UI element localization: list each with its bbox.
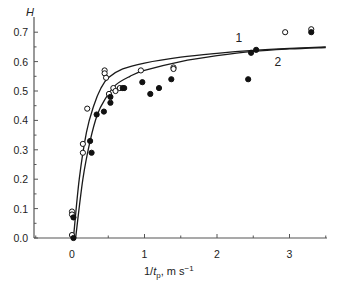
x-tick-label: 3 [287, 248, 293, 260]
curve-1 [73, 47, 325, 238]
filled-point [248, 50, 253, 55]
filled-point [108, 100, 113, 105]
axes: 0.00.10.20.30.40.50.60.70123 [13, 17, 327, 260]
filled-point [140, 80, 145, 85]
curve-label: 1 [235, 31, 242, 45]
filled-point [148, 91, 153, 96]
curve-2 [76, 47, 326, 238]
y-tick-label: 0.5 [13, 85, 28, 97]
filled-point [122, 85, 127, 90]
filled-point [108, 94, 113, 99]
open-point [80, 141, 85, 146]
open-point [80, 150, 85, 155]
axis-labels: H 1/tp, m s−1 [26, 6, 194, 280]
open-point [171, 66, 176, 71]
x-tick-label: 2 [214, 248, 220, 260]
open-point [103, 75, 108, 80]
x-tick-label: 0 [69, 248, 75, 260]
filled-point [88, 138, 93, 143]
filled-point [156, 85, 161, 90]
y-tick-label: 0.7 [13, 26, 28, 38]
x-axis-label: 1/tp, m s−1 [144, 264, 194, 280]
curve-label: 2 [275, 55, 282, 69]
y-tick-label: 0.0 [13, 232, 28, 244]
y-tick-label: 0.2 [13, 173, 28, 185]
filled-point [89, 150, 94, 155]
open-point [138, 68, 143, 73]
filled-point [94, 112, 99, 117]
filled-point [71, 215, 76, 220]
y-tick-label: 0.6 [13, 56, 28, 68]
open-point [283, 30, 288, 35]
x-tick-label: 1 [142, 248, 148, 260]
y-tick-label: 0.3 [13, 144, 28, 156]
y-tick-label: 0.4 [13, 114, 28, 126]
filled-point [101, 109, 106, 114]
filled-point [254, 47, 259, 52]
filled-point [246, 77, 251, 82]
filled-point [71, 235, 76, 240]
chart: 0.00.10.20.30.40.50.60.70123 H 1/tp, m s… [0, 0, 338, 291]
filled-point [169, 77, 174, 82]
filled-point [309, 30, 314, 35]
open-point [85, 106, 90, 111]
y-tick-label: 0.1 [13, 203, 28, 215]
fit-curves [73, 47, 325, 238]
y-axis-label: H [26, 6, 34, 18]
